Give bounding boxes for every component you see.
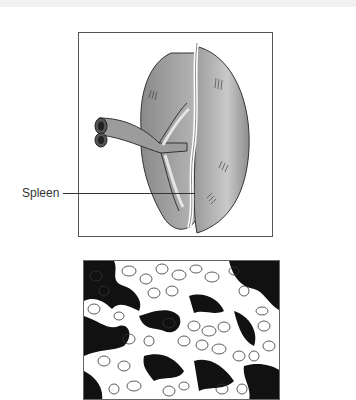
spleen-leader-line	[63, 193, 195, 194]
spleen-illustration	[79, 33, 273, 237]
tissue-micrograph-panel	[83, 260, 280, 400]
spleen-illustration-panel	[78, 32, 273, 237]
tissue-micrograph	[84, 261, 280, 400]
spleen-label: Spleen	[22, 186, 59, 200]
top-strip	[0, 0, 356, 7]
